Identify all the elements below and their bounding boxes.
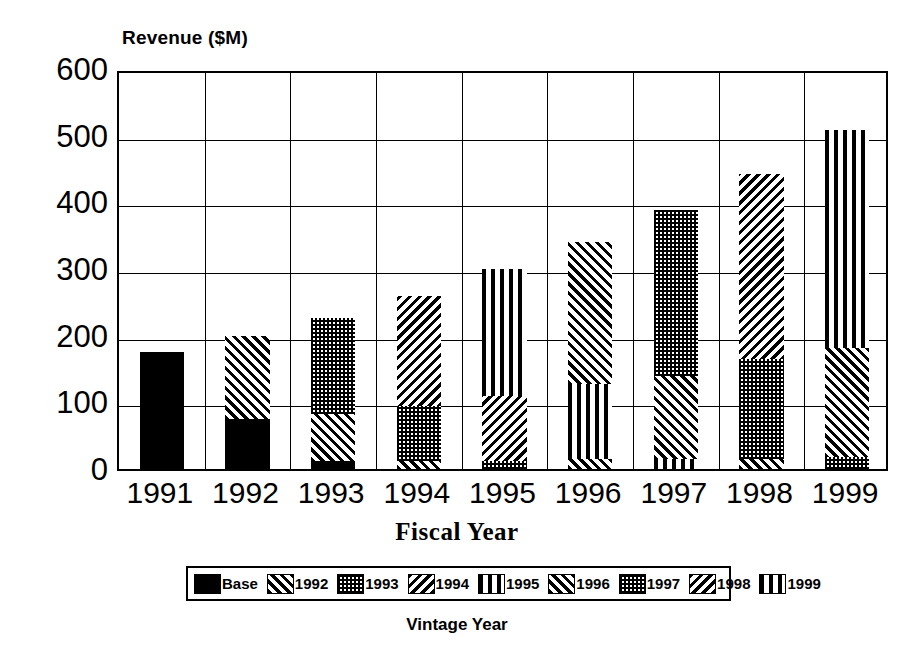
legend-title: Vintage Year: [0, 615, 914, 635]
x-axis-tick-label: 1991: [117, 478, 203, 508]
bar-segment: [568, 459, 613, 469]
bar-stack: [397, 296, 442, 469]
bar-stack: [825, 130, 870, 469]
bar-segment: [739, 174, 784, 359]
legend-item[interactable]: 1992: [267, 574, 328, 594]
bar-segment: [825, 457, 870, 469]
x-axis-tick-label: 1992: [203, 478, 289, 508]
legend: Base19921993199419951996199719981999: [186, 566, 731, 601]
bar-segment: [482, 461, 527, 469]
bar-segment: [482, 269, 527, 396]
y-axis-tick-label: 300: [8, 254, 108, 285]
legend-swatch: [548, 574, 575, 594]
x-axis-tick-label: 1995: [460, 478, 546, 508]
gridline-vertical: [205, 73, 206, 469]
bar-segment: [311, 318, 356, 415]
x-axis-title: Fiscal Year: [0, 518, 914, 546]
gridline-vertical: [376, 73, 377, 469]
x-axis-tick-label: 1996: [545, 478, 631, 508]
bar-stack: [568, 242, 613, 469]
y-axis-tick-label: 200: [8, 321, 108, 352]
bar-stack: [654, 210, 699, 469]
bar-segment: [225, 336, 270, 419]
legend-label: 1999: [787, 575, 820, 592]
legend-label: 1995: [506, 575, 539, 592]
legend-item[interactable]: 1995: [478, 574, 539, 594]
y-axis-tick-label: 600: [8, 54, 108, 85]
gridline-vertical: [633, 73, 634, 469]
x-axis-tick-label: 1998: [717, 478, 803, 508]
gridline-vertical: [804, 73, 805, 469]
legend-item[interactable]: 1996: [548, 574, 609, 594]
y-axis-title: Revenue ($M): [122, 27, 248, 49]
legend-item[interactable]: 1997: [619, 574, 680, 594]
bar-segment: [568, 242, 613, 383]
bar-segment: [140, 352, 185, 469]
x-axis-tick-label: 1997: [631, 478, 717, 508]
legend-item[interactable]: 1993: [337, 574, 398, 594]
bar-segment: [825, 130, 870, 347]
gridline-horizontal: [119, 140, 886, 141]
legend-item[interactable]: 1994: [408, 574, 469, 594]
legend-swatch: [619, 574, 646, 594]
x-axis-tick-label: 1999: [802, 478, 888, 508]
legend-label: 1996: [576, 575, 609, 592]
bar-stack: [225, 336, 270, 469]
plot-area: [117, 71, 888, 471]
bar-segment: [311, 461, 356, 469]
legend-label: 1992: [295, 575, 328, 592]
legend-label: 1993: [365, 575, 398, 592]
bar-segment: [654, 210, 699, 375]
y-axis-tick-label: 0: [8, 454, 108, 485]
bar-segment: [225, 419, 270, 469]
legend-item[interactable]: 1999: [759, 574, 820, 594]
legend-label: 1994: [436, 575, 469, 592]
legend-swatch: [689, 574, 716, 594]
bar-segment: [825, 348, 870, 457]
bar-segment: [397, 406, 442, 461]
legend-label: Base: [222, 575, 258, 592]
gridline-vertical: [547, 73, 548, 469]
legend-swatch: [759, 574, 786, 594]
bar-segment: [654, 376, 699, 459]
legend-label: 1998: [717, 575, 750, 592]
legend-label: 1997: [647, 575, 680, 592]
y-axis-tick-label: 500: [8, 121, 108, 152]
x-axis-tick-label: 1994: [374, 478, 460, 508]
bar-segment: [654, 459, 699, 469]
bar-stack: [739, 174, 784, 469]
y-axis-tick-label: 400: [8, 187, 108, 218]
legend-item[interactable]: 1998: [689, 574, 750, 594]
chart-canvas: Revenue ($M) 0100200300400500600 1991199…: [0, 0, 914, 661]
legend-swatch: [408, 574, 435, 594]
bar-segment: [482, 396, 527, 461]
gridline-vertical: [462, 73, 463, 469]
bar-segment: [311, 414, 356, 461]
legend-swatch: [267, 574, 294, 594]
y-axis-tick-label: 100: [8, 387, 108, 418]
legend-swatch: [337, 574, 364, 594]
bar-segment: [739, 359, 784, 459]
bar-stack: [140, 352, 185, 469]
y-axis-tick-labels: 0100200300400500600: [0, 0, 108, 661]
bar-stack: [482, 269, 527, 469]
gridline-vertical: [719, 73, 720, 469]
legend-item[interactable]: Base: [194, 574, 258, 594]
legend-swatch: [478, 574, 505, 594]
bar-segment: [397, 461, 442, 469]
bar-segment: [397, 296, 442, 406]
gridline-vertical: [290, 73, 291, 469]
legend-swatch: [194, 574, 221, 594]
bar-stack: [311, 318, 356, 469]
x-axis-tick-label: 1993: [288, 478, 374, 508]
bar-segment: [739, 459, 784, 469]
bar-segment: [568, 384, 613, 459]
